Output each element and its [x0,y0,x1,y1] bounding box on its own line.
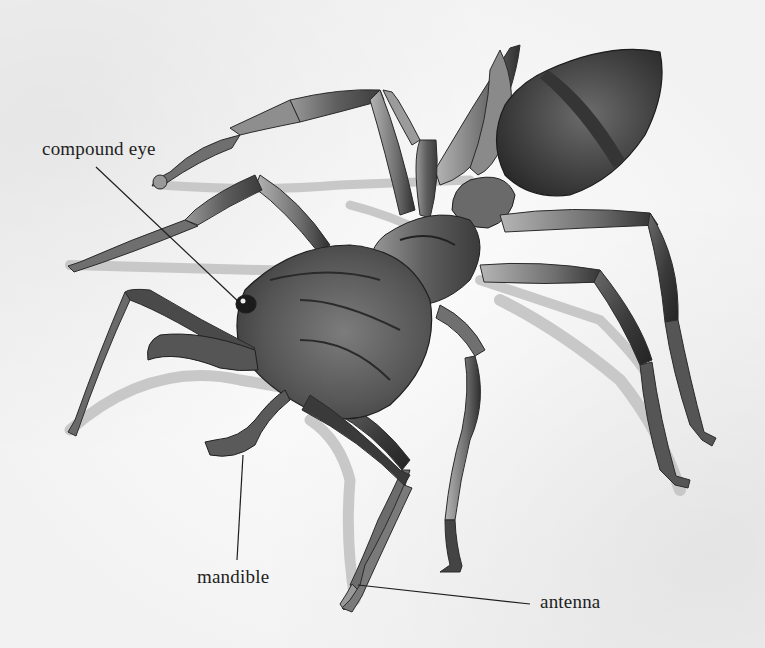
ant-diagram: compound eye mandible antenna [0,0,765,648]
label-compound-eye: compound eye [42,138,156,160]
leader-line-mandible [237,455,243,560]
label-mandible: mandible [197,566,269,588]
leader-line-antenna [358,585,530,604]
leader-line-compound-eye [96,167,241,304]
label-antenna: antenna [540,591,600,613]
leader-lines [0,0,765,648]
